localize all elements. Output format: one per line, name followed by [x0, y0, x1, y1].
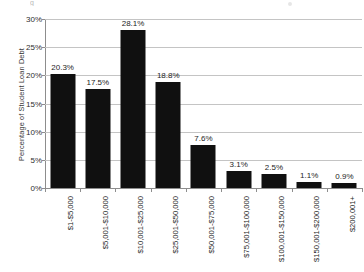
- bar[interactable]: [85, 89, 110, 188]
- x-tick-mark: [151, 188, 152, 192]
- bar-value-label: 18.8%: [157, 71, 180, 80]
- x-tick-mark: [221, 188, 222, 192]
- x-tick-mark: [362, 188, 363, 192]
- bar[interactable]: [50, 74, 75, 188]
- x-tick-mark: [45, 188, 46, 192]
- x-tick-mark: [327, 188, 328, 192]
- x-axis-label: $100,001-$150,000: [277, 196, 286, 262]
- plot-area: 20.3%17.5%28.1%18.8%7.6%3.1%2.5%1.1%0.9%: [45, 19, 362, 188]
- bar-slot: 1.1%: [292, 19, 327, 188]
- x-axis-label: $75,001-$100,000: [242, 196, 251, 258]
- bar[interactable]: [191, 145, 216, 188]
- x-tick-mark: [186, 188, 187, 192]
- bar-slot: 18.8%: [151, 19, 186, 188]
- y-axis-title: Percentage of Student Loan Debt: [17, 12, 26, 198]
- x-axis-label: $5,001-$10,000: [101, 196, 110, 249]
- bar-value-label: 0.9%: [335, 172, 353, 181]
- bar-value-label: 1.1%: [300, 171, 318, 180]
- top-speck-artifact: [288, 2, 292, 6]
- x-axis-label: $1-$5,000: [66, 196, 75, 230]
- bar-slot: 17.5%: [80, 19, 115, 188]
- bar-chart: g Percentage of Student Loan Debt 0%5%10…: [0, 0, 364, 272]
- x-axis-label: $50,001-$75,000: [207, 196, 216, 253]
- bar[interactable]: [226, 171, 251, 188]
- x-axis-label: $25,001-$50,000: [171, 196, 180, 253]
- bar-value-label: 28.1%: [122, 19, 145, 28]
- bar[interactable]: [121, 30, 146, 188]
- x-axis-line: [45, 188, 362, 189]
- bar-slot: 3.1%: [221, 19, 256, 188]
- bar-slot: 20.3%: [45, 19, 80, 188]
- bar-slot: 0.9%: [327, 19, 362, 188]
- bar-value-label: 20.3%: [51, 63, 74, 72]
- x-tick-mark: [256, 188, 257, 192]
- bar-value-label: 2.5%: [265, 163, 283, 172]
- bar[interactable]: [332, 183, 357, 188]
- clipped-title-artifact: g: [30, 0, 35, 6]
- bar[interactable]: [297, 182, 322, 188]
- bar-slot: 28.1%: [115, 19, 150, 188]
- x-tick-mark: [115, 188, 116, 192]
- x-tick-mark: [80, 188, 81, 192]
- x-tick-mark: [292, 188, 293, 192]
- bar-value-label: 7.6%: [194, 134, 212, 143]
- bar[interactable]: [261, 174, 286, 188]
- bar-value-label: 17.5%: [86, 78, 109, 87]
- bar-slot: 2.5%: [256, 19, 291, 188]
- x-axis-label: $150,001-$200,000: [312, 196, 321, 262]
- bar-value-label: 3.1%: [230, 160, 248, 169]
- bar-slot: 7.6%: [186, 19, 221, 188]
- x-axis-label: $200,001+: [348, 196, 357, 232]
- x-axis-label: $10,001-$25,000: [136, 196, 145, 253]
- bar[interactable]: [156, 82, 181, 188]
